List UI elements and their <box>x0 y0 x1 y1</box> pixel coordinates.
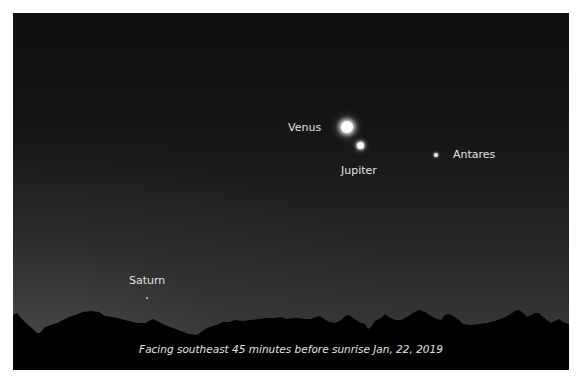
sky-illustration: Venus Jupiter Antares Saturn Facing sout… <box>13 13 569 370</box>
treeline-silhouette <box>13 13 569 370</box>
caption: Facing southeast 45 minutes before sunri… <box>13 343 569 355</box>
